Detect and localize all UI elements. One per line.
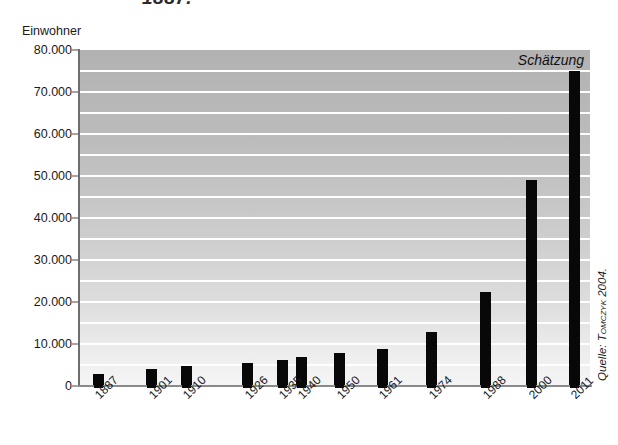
- y-axis-tick-label: 10.000: [34, 337, 72, 351]
- gridline: [80, 91, 590, 93]
- y-axis-tick-label: 50.000: [34, 169, 72, 183]
- y-axis-labels-group: 010.00020.00030.00040.00050.00060.00070.…: [0, 0, 72, 445]
- y-axis-tick-mark: [72, 386, 78, 387]
- y-axis-tick-mark: [72, 302, 78, 303]
- bar: [480, 292, 491, 387]
- bar: [426, 332, 437, 386]
- y-axis-tick-label: 80.000: [34, 43, 72, 57]
- gridline: [80, 280, 590, 282]
- page-title-fragment: 1887.: [142, 0, 192, 9]
- y-axis-tick-mark: [72, 50, 78, 51]
- source-author: Tomczyk: [596, 300, 608, 341]
- gridline: [80, 343, 590, 345]
- gridline: [80, 217, 590, 219]
- y-axis-tick-label: 30.000: [34, 253, 72, 267]
- y-axis-tick-mark: [72, 260, 78, 261]
- y-axis-tick-label: 60.000: [34, 127, 72, 141]
- bar: [569, 71, 580, 386]
- gridline: [80, 133, 590, 135]
- y-axis-tick-label: 20.000: [34, 295, 72, 309]
- gridline: [80, 322, 590, 324]
- y-axis-tick-mark: [72, 134, 78, 135]
- gridline: [80, 175, 590, 177]
- gridline: [80, 196, 590, 198]
- gridline: [80, 259, 590, 261]
- y-axis-tick-mark: [72, 344, 78, 345]
- gridline: [80, 70, 590, 72]
- source-credit: Quelle: Tomczyk 2004.: [596, 268, 608, 381]
- gridline: [80, 301, 590, 303]
- gridline: [80, 112, 590, 114]
- y-axis-tick-mark: [72, 92, 78, 93]
- source-suffix: 2004.: [596, 268, 608, 300]
- y-axis-tick-label: 40.000: [34, 211, 72, 225]
- y-axis-tick-label: 70.000: [34, 85, 72, 99]
- source-prefix: Quelle:: [596, 341, 608, 381]
- gridline: [80, 154, 590, 156]
- y-axis-tick-mark: [72, 218, 78, 219]
- bar: [526, 180, 537, 386]
- gridline: [80, 238, 590, 240]
- y-axis-line: [78, 49, 80, 387]
- chart-plot-area: Schätzung: [80, 50, 590, 386]
- y-axis-tick-mark: [72, 176, 78, 177]
- estimate-annotation: Schätzung: [518, 52, 584, 68]
- y-axis-tick-label: 0: [65, 379, 72, 393]
